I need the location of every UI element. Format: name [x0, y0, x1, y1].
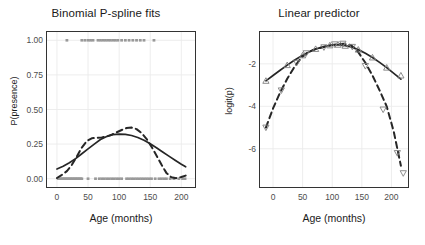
marker-triangle-down [400, 171, 406, 177]
x-tick-label: 150 [355, 192, 369, 202]
plot-area-right [259, 31, 409, 188]
y-tick-labels-left: 0.000.250.500.751.00 [0, 31, 43, 188]
series-smooth-fit [57, 134, 186, 169]
y-tick-label: -4 [248, 101, 256, 111]
x-axis-label-right: Age (months) [259, 212, 409, 224]
series-wiggly-fit [57, 127, 186, 178]
x-tick-label: 50 [83, 192, 92, 202]
marker-triangle-down [380, 107, 386, 113]
x-tick-label: 50 [298, 192, 307, 202]
plot-canvas-right [260, 32, 408, 187]
marker-triangle-up [398, 72, 404, 78]
x-tick-label: 200 [174, 192, 188, 202]
x-tick-label: 0 [271, 192, 276, 202]
figure-root: Binomial P-spline fits P(presence) 0.000… [0, 0, 425, 245]
x-tick-label: 200 [384, 192, 398, 202]
x-axis-label-left: Age (months) [46, 212, 196, 224]
panel-title-left: Binomial P-spline fits [0, 7, 212, 19]
series-smooth-linear-predictor [266, 45, 401, 81]
y-tick-label: 0.25 [26, 139, 43, 149]
x-tick-label: 0 [55, 192, 60, 202]
x-tick-label: 100 [112, 192, 126, 202]
y-tick-label: 0.50 [26, 105, 43, 115]
plot-area-left [46, 31, 196, 188]
x-tick-label: 150 [143, 192, 157, 202]
plot-canvas-left [47, 32, 195, 187]
panel-binomial-pspline: Binomial P-spline fits P(presence) 0.000… [0, 0, 212, 245]
y-tick-labels-right: -2-4-6 [213, 31, 256, 188]
y-tick-label: 0.75 [26, 70, 43, 80]
y-tick-label: 0.00 [26, 174, 43, 184]
series-wiggly-linear-predictor [266, 44, 401, 166]
y-tick-label: -2 [248, 59, 256, 69]
y-tick-label: -6 [248, 144, 256, 154]
x-tick-label: 100 [325, 192, 339, 202]
y-tick-label: 1.00 [26, 35, 43, 45]
panel-linear-predictor: Linear predictor logit(p) -2-4-6 0501001… [213, 0, 425, 245]
panel-title-right: Linear predictor [213, 7, 425, 19]
